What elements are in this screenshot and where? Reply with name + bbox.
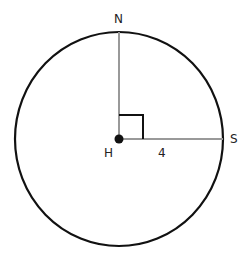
label-radius: 4 [158, 147, 166, 159]
center-point [115, 135, 124, 144]
label-s: S [230, 133, 238, 145]
right-angle-marker [119, 115, 143, 139]
diagram-canvas [0, 0, 250, 257]
label-n: N [114, 13, 123, 25]
label-h: H [104, 147, 113, 159]
